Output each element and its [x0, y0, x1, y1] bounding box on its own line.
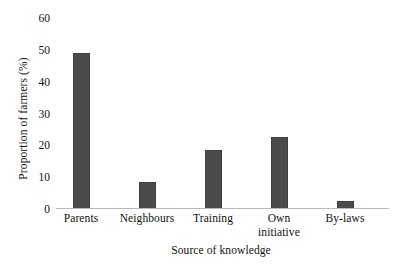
bar-parents — [73, 53, 90, 209]
y-tick-label: 40 — [24, 76, 50, 88]
x-tick-label-line1: By-laws — [303, 212, 387, 226]
bar-chart-figure: Proportion of farmers (%) 0102030405060 … — [0, 0, 393, 272]
plot-area — [56, 18, 386, 209]
y-tick-label: 10 — [24, 171, 50, 183]
x-axis-line — [56, 208, 389, 209]
y-tick-label: 60 — [24, 12, 50, 24]
x-axis-title: Source of knowledge — [56, 244, 386, 257]
bar-training — [205, 150, 222, 209]
x-axis-tick-labels: ParentsNeighboursTrainingOwninitiativeBy… — [56, 212, 386, 248]
x-tick-label-line2: initiative — [237, 226, 321, 240]
bar-own-initiative — [271, 137, 288, 209]
y-tick-label: 20 — [24, 139, 50, 151]
y-axis-tick-labels: 0102030405060 — [22, 0, 50, 272]
y-tick-label: 30 — [24, 108, 50, 120]
bar-neighbours — [139, 182, 156, 209]
y-tick-label: 50 — [24, 44, 50, 56]
x-tick-label: By-laws — [303, 212, 387, 226]
